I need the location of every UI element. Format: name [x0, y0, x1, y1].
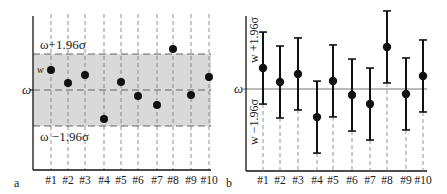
x-tick-label: #3: [292, 174, 304, 186]
x-tick-label: #5: [115, 174, 127, 186]
lower-error-label: w −1.96σ: [247, 99, 261, 145]
upper-error-label: w +1.96σ: [247, 17, 261, 63]
x-tick-label: #1: [257, 174, 269, 186]
panel-letter: b: [226, 176, 232, 190]
x-tick-label: #6: [132, 174, 144, 186]
data-point: [169, 45, 177, 53]
data-point: [329, 77, 337, 85]
data-point: [187, 91, 195, 99]
x-tick-label: #8: [167, 174, 179, 186]
x-tick-label: #10: [414, 174, 432, 186]
data-point: [153, 101, 161, 109]
data-point: [259, 64, 267, 72]
x-tick-label: #7: [364, 174, 376, 186]
data-point: [366, 100, 374, 108]
data-point: [81, 71, 89, 79]
omega-label: ω: [22, 82, 31, 97]
x-tick-label: #3: [79, 174, 91, 186]
x-tick-label: #9: [400, 174, 412, 186]
upper-band-label: ω+1.96σ: [40, 37, 86, 52]
x-tick-label: #6: [346, 174, 358, 186]
x-tick-label: #1: [45, 174, 57, 186]
x-tick-label: #2: [274, 174, 286, 186]
panel-letter: a: [14, 176, 20, 190]
x-tick-label: #9: [185, 174, 197, 186]
x-tick-label: #10: [200, 174, 218, 186]
x-tick-label: #8: [381, 174, 393, 186]
omega-label: ω: [234, 81, 243, 96]
data-point: [402, 90, 410, 98]
x-tick-label: #7: [151, 174, 163, 186]
data-point: [313, 113, 321, 121]
data-point: [383, 43, 391, 51]
data-point: [205, 73, 213, 81]
data-point: [276, 78, 284, 86]
data-point: [47, 66, 55, 74]
x-tick-label: #4: [311, 174, 323, 186]
data-point: [294, 70, 302, 78]
data-point: [419, 72, 427, 80]
data-point: [64, 79, 72, 87]
chart-figure: ωwω+1.96σω −1.96σ#1#2#3#4#5#6#7#8#9#10aω…: [0, 0, 447, 194]
data-point: [100, 115, 108, 123]
data-point: [117, 78, 125, 86]
x-tick-label: #4: [98, 174, 110, 186]
x-tick-label: #2: [62, 174, 74, 186]
w-label: w: [37, 64, 44, 75]
lower-band-label: ω −1.96σ: [40, 129, 89, 144]
x-tick-label: #5: [327, 174, 339, 186]
data-point: [134, 92, 142, 100]
data-point: [348, 91, 356, 99]
